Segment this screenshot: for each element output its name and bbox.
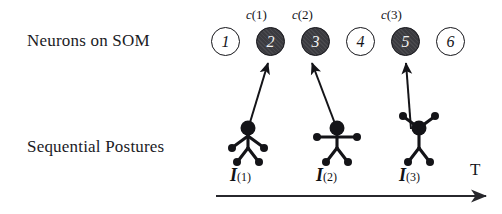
figure-head — [241, 121, 256, 136]
figure-hand-right — [431, 112, 439, 120]
figure-arm-right — [248, 136, 263, 147]
figure-hand-left — [313, 133, 321, 141]
figure-foot-right — [344, 158, 352, 166]
stick-figure-posture-1 — [228, 121, 268, 167]
figure-foot-left — [322, 158, 330, 166]
mapping-arrow-1 — [248, 63, 268, 129]
figure-foot-left — [233, 158, 241, 166]
som-posture-mapping-figure: Neurons on SOM Sequential Postures c(1) … — [0, 0, 502, 214]
stick-figure-posture-2 — [313, 121, 361, 167]
figure-arm-left — [233, 136, 248, 147]
figure-foot-right — [426, 158, 434, 166]
figure-head — [330, 121, 345, 136]
figure-hand-right — [353, 133, 361, 141]
mapping-arrow-2 — [312, 63, 337, 129]
figure-foot-left — [404, 158, 412, 166]
figure-vector-layer — [0, 0, 502, 214]
figure-hand-left — [399, 112, 407, 120]
figure-foot-right — [255, 158, 263, 166]
posture-to-neuron-arrows — [248, 63, 411, 129]
figure-hand-left — [228, 144, 236, 152]
figure-hand-right — [260, 144, 268, 152]
stick-figure-posture-3 — [399, 112, 439, 166]
